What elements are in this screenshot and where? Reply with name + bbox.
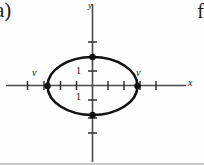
vertex-left-label: v <box>32 68 36 78</box>
unit-label-lower: 1 <box>76 92 81 102</box>
vertex-right-label: v <box>136 68 140 78</box>
part-label: a) <box>0 0 11 21</box>
covertex-top-point <box>89 54 95 60</box>
y-axis-label: y <box>88 1 92 10</box>
ellipse-figure: a) f x y v v 1 1 <box>0 0 204 165</box>
vertex-left-point <box>44 83 50 89</box>
bottom-divider <box>0 163 204 165</box>
x-axis-label: x <box>188 78 192 88</box>
adjacent-figure-fragment-label: f <box>197 1 204 21</box>
covertex-bottom-point <box>89 112 95 118</box>
vertex-right-point <box>134 83 140 89</box>
unit-label-upper: 1 <box>76 66 81 76</box>
ellipse-graph-svg <box>0 0 204 165</box>
